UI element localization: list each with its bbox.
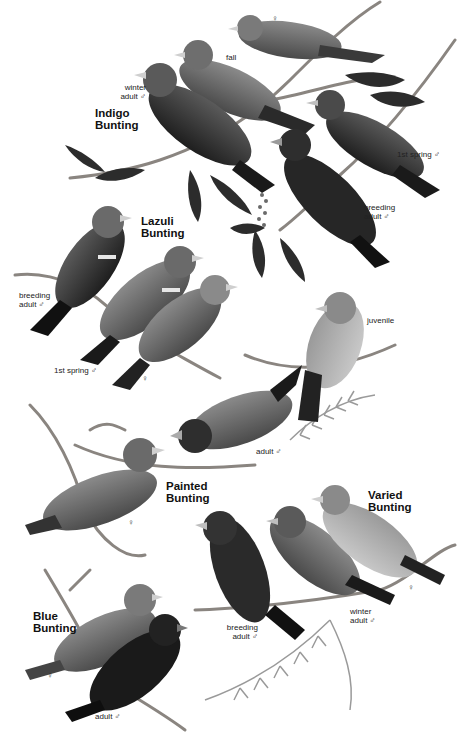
label-blue-adult-male: adult ♂ — [95, 712, 121, 721]
label-painted-adult-male: adult ♂ — [256, 447, 282, 456]
species-name-line2: Bunting — [33, 622, 76, 634]
species-name-line2: Bunting — [368, 501, 411, 513]
species-title-painted: Painted Bunting — [166, 480, 209, 504]
species-title-blue: Blue Bunting — [33, 610, 76, 634]
label-varied-winter-adult-male: winter adult ♂ — [350, 607, 376, 625]
painted-adult-male — [170, 365, 302, 461]
label-varied-breeding-adult-male: breeding adult ♂ — [220, 623, 258, 641]
label-painted-female: ♀ — [128, 518, 134, 527]
label-lazuli-first-spring-male: 1st spring ♂ — [54, 366, 97, 375]
species-title-lazuli: Lazuli Bunting — [141, 215, 184, 239]
species-name-line1: Blue — [33, 610, 76, 622]
label-indigo-winter-adult-male: winter adult ♂ — [108, 83, 146, 101]
label-painted-juvenile: juvenile — [367, 316, 394, 325]
species-name-line2: Bunting — [95, 119, 138, 131]
bunting-plate: Indigo Bunting ♀ fall winter adult ♂ 1st… — [0, 0, 457, 736]
label-varied-female: ♀ — [408, 583, 414, 592]
label-blue-female: ♀ — [47, 671, 53, 680]
berry-cluster — [257, 193, 268, 227]
label-indigo-female: ♀ — [272, 14, 278, 23]
species-name-line1: Varied — [368, 489, 411, 501]
species-name-line2: Bunting — [141, 227, 184, 239]
species-name-line1: Lazuli — [141, 215, 184, 227]
species-title-varied: Varied Bunting — [368, 489, 411, 513]
indigo-female — [228, 15, 385, 65]
label-indigo-breeding-adult-male: breeding adult ♂ — [364, 203, 395, 221]
species-name-line1: Painted — [166, 480, 209, 492]
species-name-line2: Bunting — [166, 492, 209, 504]
label-indigo-fall: fall — [226, 53, 236, 62]
label-lazuli-breeding-adult-male: breeding adult ♂ — [19, 291, 50, 309]
label-lazuli-female: ♀ — [142, 374, 148, 383]
species-name-line1: Indigo — [95, 107, 138, 119]
species-title-indigo: Indigo Bunting — [95, 107, 138, 131]
label-indigo-first-spring-male: 1st spring ♂ — [397, 150, 440, 159]
